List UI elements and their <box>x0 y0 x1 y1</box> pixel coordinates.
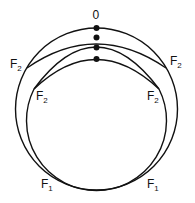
label-f2-inner-left: F2 <box>36 89 48 105</box>
diagram: 0 F2 F2 F2 F2 F1 F1 <box>0 0 195 203</box>
label-f2-inner-right: F2 <box>147 89 159 105</box>
arc-fourth <box>34 60 159 90</box>
outer-circle <box>16 28 178 190</box>
label-f2-outer-left: F2 <box>10 57 22 73</box>
dot-3 <box>94 45 100 51</box>
dot-1 <box>94 25 100 31</box>
label-f1-left: F1 <box>41 177 53 193</box>
origin-label: 0 <box>93 8 100 22</box>
dot-2 <box>94 35 100 41</box>
label-f2-outer-right: F2 <box>170 54 182 70</box>
label-f1-right: F1 <box>147 177 159 193</box>
dot-4 <box>94 56 100 62</box>
curves-diagram: 0 F2 F2 F2 F2 F1 F1 <box>0 0 195 203</box>
